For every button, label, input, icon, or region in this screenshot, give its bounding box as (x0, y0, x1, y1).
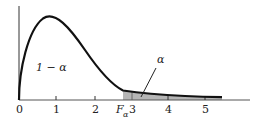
alpha-label: α (157, 53, 165, 66)
svg-text:1: 1 (53, 103, 60, 116)
svg-text:5: 5 (202, 103, 209, 116)
svg-text:4: 4 (165, 103, 172, 116)
svg-text:2: 2 (92, 103, 99, 116)
svg-text:0: 0 (16, 103, 23, 116)
critical-value-subscript: α (123, 110, 129, 119)
x-tick-labels: 0 1 2 3 4 5 (16, 103, 209, 116)
svg-text:3: 3 (129, 103, 136, 116)
density-curve (19, 16, 222, 100)
f-distribution-diagram: α 1 − α 0 1 2 3 4 5 F α (0, 0, 261, 123)
one-minus-alpha-label: 1 − α (36, 61, 67, 74)
